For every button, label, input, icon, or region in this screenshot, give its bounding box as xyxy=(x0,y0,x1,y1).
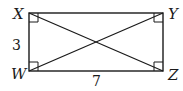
rectangle-svg: X Y Z W 3 7 xyxy=(0,0,183,91)
rectangle-diagram: X Y Z W 3 7 xyxy=(0,0,183,91)
side-length-xw: 3 xyxy=(12,37,21,53)
vertex-label-z: Z xyxy=(167,66,179,84)
vertex-label-w: W xyxy=(11,65,28,83)
vertex-label-x: X xyxy=(12,5,25,23)
side-length-wz: 7 xyxy=(92,73,101,89)
vertex-label-y: Y xyxy=(168,5,180,23)
